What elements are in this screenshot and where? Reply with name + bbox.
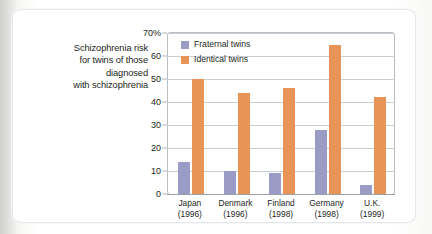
scanned-page: Schizophrenia risk for twins of those di… (0, 0, 432, 234)
legend-label-fraternal: Fraternal twins (194, 40, 250, 49)
bar-denmark-identical (238, 93, 250, 194)
caption-line-4: with schizophrenia (23, 79, 148, 91)
y-tick-label-20: 20 (151, 144, 161, 153)
bar-germany-identical (329, 45, 341, 195)
y-tick-label-10: 10 (151, 167, 161, 176)
legend-label-identical: Identical twins (194, 55, 248, 64)
x-axis-labels: Japan(1996)Denmark(1996)Finland(1998)Ger… (167, 198, 395, 226)
y-tick-label-0: 0 (156, 190, 161, 199)
chart-caption: Schizophrenia risk for twins of those di… (23, 42, 148, 92)
bar-uk-identical (374, 97, 386, 194)
bar-group-uk (349, 32, 395, 194)
x-label-country: Germany (309, 198, 343, 208)
caption-line-2: for twins of those (23, 54, 148, 66)
legend-item-fraternal: Fraternal twins (181, 38, 250, 51)
x-label-country: Finland (267, 198, 294, 208)
caption-line-3: diagnosed (23, 67, 148, 79)
caption-line-1: Schizophrenia risk (23, 42, 148, 54)
figure-panel: Schizophrenia risk for twins of those di… (12, 9, 416, 223)
x-label-country: U.K. (364, 198, 380, 208)
bar-finland-identical (283, 88, 295, 194)
bar-group-germany (304, 32, 350, 194)
x-label-country: Denmark (218, 198, 252, 208)
x-label-country: Japan (178, 198, 201, 208)
x-label-year: (1999) (344, 209, 400, 220)
bar-japan-fraternal (178, 162, 190, 194)
bar-japan-identical (192, 79, 204, 194)
x-axis-label-uk: U.K.(1999) (344, 198, 400, 220)
bar-denmark-fraternal (224, 171, 236, 194)
legend-swatch-identical (181, 56, 189, 64)
bar-germany-fraternal (315, 130, 327, 194)
legend-swatch-fraternal (181, 41, 189, 49)
y-tick-label-50: 50 (151, 75, 161, 84)
legend-item-identical: Identical twins (181, 53, 250, 66)
chart-legend: Fraternal twins Identical twins (181, 38, 250, 68)
bar-chart: 010203040506070% Fraternal twins Identic… (167, 32, 395, 195)
y-tick-label-60: 60 (151, 52, 161, 61)
bar-uk-fraternal (360, 185, 372, 194)
bar-group-finland (258, 32, 304, 194)
bar-finland-fraternal (269, 173, 281, 194)
y-tick-label-70: 70% (143, 29, 161, 38)
y-tick-label-30: 30 (151, 121, 161, 130)
y-tick-label-40: 40 (151, 98, 161, 107)
